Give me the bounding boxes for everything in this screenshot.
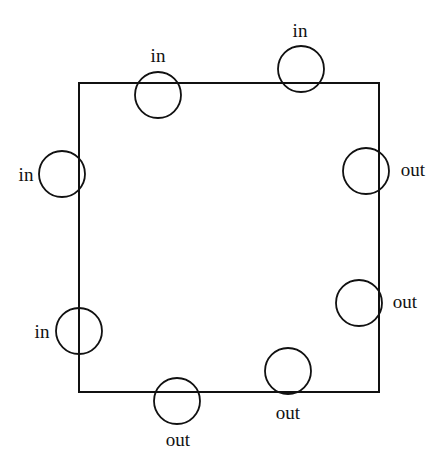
boundary-circles <box>39 46 389 424</box>
label-top-left: in <box>151 45 166 66</box>
square-region <box>79 83 379 392</box>
circle-bottom-left <box>154 378 200 424</box>
boundary-diagram: ininininoutoutoutout <box>0 0 448 464</box>
label-top-right: in <box>293 20 308 41</box>
label-left-upper: in <box>19 164 34 185</box>
circle-bottom-right <box>265 348 311 394</box>
circle-top-right <box>278 46 324 92</box>
label-bottom-right: out <box>276 402 301 423</box>
square-outline <box>79 83 379 392</box>
circle-right-lower <box>336 280 382 326</box>
label-right-upper: out <box>401 159 426 180</box>
circle-top-left <box>135 72 181 118</box>
circle-right-upper <box>343 148 389 194</box>
label-bottom-left: out <box>166 429 191 450</box>
label-right-lower: out <box>393 291 418 312</box>
label-left-lower: in <box>35 321 50 342</box>
